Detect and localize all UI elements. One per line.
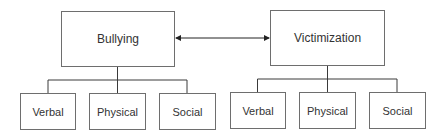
bullying-node: Bullying [61,11,175,67]
victimization-social-node: Social [369,92,426,129]
bullying-verbal-node: Verbal [20,93,76,130]
victimization-verbal-node: Verbal [230,92,286,129]
victimization-node: Victimization [270,10,385,66]
bullying-physical-node: Physical [89,93,146,130]
victimization-physical-node: Physical [299,92,356,129]
bullying-social-node: Social [159,93,216,130]
